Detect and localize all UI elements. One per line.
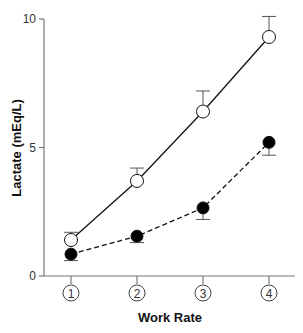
series-filled-circles <box>64 136 276 260</box>
svg-text:1: 1 <box>68 287 75 301</box>
svg-text:3: 3 <box>200 287 207 301</box>
x-tick-2: 2 <box>129 285 145 301</box>
open-circle-marker <box>263 30 276 43</box>
series-line <box>71 142 269 254</box>
svg-text:2: 2 <box>134 287 141 301</box>
series-layer <box>64 16 276 260</box>
filled-circle-marker <box>131 230 143 242</box>
open-circle-marker <box>65 234 78 247</box>
x-tick-4: 4 <box>261 285 277 301</box>
figure-caption-cropped <box>0 328 303 333</box>
y-axis-title: Lactate (mEq/L) <box>9 99 24 197</box>
open-circle-marker <box>131 174 144 187</box>
y-tick-0: 0 <box>29 269 36 283</box>
lactate-chart: 10 5 0 Lactate (mEq/L) 1 2 3 4 Work Rate <box>0 0 303 333</box>
x-axis: 1 2 3 4 Work Rate <box>44 276 295 325</box>
filled-circle-marker <box>197 202 209 214</box>
y-axis: 10 5 0 Lactate (mEq/L) <box>9 12 44 283</box>
x-tick-3: 3 <box>195 285 211 301</box>
series-line <box>71 37 269 240</box>
y-tick-10: 10 <box>23 12 37 26</box>
filled-circle-marker <box>65 248 77 260</box>
open-circle-marker <box>197 105 210 118</box>
x-tick-1: 1 <box>63 285 79 301</box>
x-axis-title: Work Rate <box>138 310 202 325</box>
y-tick-5: 5 <box>29 141 36 155</box>
svg-text:4: 4 <box>266 287 273 301</box>
filled-circle-marker <box>263 136 275 148</box>
series-open-circles <box>64 16 276 246</box>
